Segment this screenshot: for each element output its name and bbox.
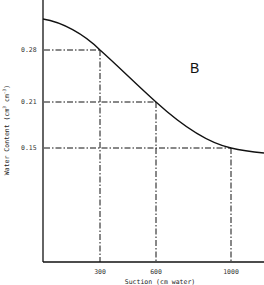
reference-lines [44, 50, 231, 262]
x-tick-label: 300 [94, 268, 106, 276]
x-tick-label: 1000 [223, 268, 239, 276]
y-axis-label-end: ) [3, 85, 11, 89]
y-tick-label: 0.28 [21, 46, 37, 54]
y-tick-label: 0.21 [21, 98, 37, 106]
x-tick-label: 600 [150, 268, 162, 276]
y-axis-label: Water Content (cm3 cm-3) [2, 85, 11, 175]
y-axis-label-mid: cm [3, 94, 11, 106]
panel-label: B [190, 60, 199, 76]
y-tick-label: 0.15 [21, 144, 37, 152]
x-axis-label: Suction (cm water) [125, 278, 195, 285]
y-axis-label-main: Water Content (cm [3, 109, 11, 176]
retention-curve [43, 19, 264, 153]
water-retention-chart: B 0.28 0.21 0.15 300 600 1000 Suction (c… [0, 0, 264, 285]
